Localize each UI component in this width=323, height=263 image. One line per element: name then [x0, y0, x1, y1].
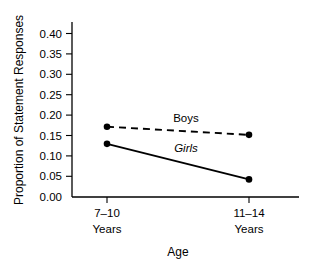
x-category-labels: 7–10 Years 11–14 Years — [93, 207, 266, 235]
chart-container: 0.40 0.35 0.30 0.25 0.20 0.15 0.10 0.05 … — [0, 0, 323, 263]
series-boys — [104, 123, 253, 138]
x-axis-title: Age — [167, 245, 189, 259]
x-category-label-1-line1: 7–10 — [94, 207, 120, 219]
y-axis-ticks — [66, 34, 72, 177]
series-annotation-boys: Boys — [173, 112, 199, 124]
y-tick-label-0.00: 0.00 — [40, 191, 62, 203]
y-tick-label-0.35: 0.35 — [40, 48, 62, 60]
y-tick-label-0.30: 0.30 — [40, 68, 62, 80]
x-axis-ticks — [107, 197, 249, 203]
x-category-label-2-line1: 11–14 — [233, 207, 265, 219]
y-tick-label-0.40: 0.40 — [40, 28, 62, 40]
y-tick-label-0.05: 0.05 — [40, 170, 62, 182]
y-tick-labels: 0.40 0.35 0.30 0.25 0.20 0.15 0.10 0.05 … — [40, 28, 62, 203]
x-category-label-1-line2: Years — [93, 223, 122, 235]
chart-svg: 0.40 0.35 0.30 0.25 0.20 0.15 0.10 0.05 … — [0, 0, 323, 263]
data-point-boys-1 — [246, 132, 253, 139]
series-annotation-girls: Girls — [174, 142, 198, 154]
y-tick-label-0.20: 0.20 — [40, 109, 62, 121]
data-point-girls-0 — [104, 141, 111, 148]
y-tick-label-0.10: 0.10 — [40, 150, 62, 162]
series-line-boys — [107, 127, 249, 135]
data-point-boys-0 — [104, 123, 111, 130]
x-category-label-2-line2: Years — [235, 223, 264, 235]
y-tick-label-0.15: 0.15 — [40, 130, 62, 142]
y-axis-title: Proportion of Statement Responses — [12, 15, 26, 205]
y-tick-label-0.25: 0.25 — [40, 89, 62, 101]
data-point-girls-1 — [246, 176, 253, 183]
